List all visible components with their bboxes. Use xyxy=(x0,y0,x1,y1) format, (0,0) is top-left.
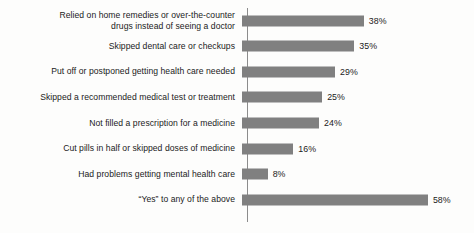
bar-track: 8% xyxy=(241,161,474,187)
bar xyxy=(242,194,428,205)
bar-track: 29% xyxy=(241,59,474,85)
bar xyxy=(242,41,354,52)
category-label: Skipped dental care or checkups xyxy=(0,41,241,52)
category-label: Had problems getting mental health care xyxy=(0,169,241,180)
bar-track: 25% xyxy=(241,84,474,110)
bar xyxy=(242,117,319,128)
bar-row: Not filled a prescription for a medicine… xyxy=(0,110,474,136)
category-label: Not filled a prescription for a medicine xyxy=(0,118,241,129)
bar-value-label: 8% xyxy=(273,169,286,179)
bar-row: “Yes” to any of the above58% xyxy=(0,187,474,213)
bar-row: Skipped a recommended medical test or tr… xyxy=(0,84,474,110)
bar-track: 58% xyxy=(241,187,474,213)
bar-row: Skipped dental care or checkups35% xyxy=(0,33,474,59)
bar-value-label: 24% xyxy=(324,118,342,128)
bar-track: 16% xyxy=(241,136,474,162)
bar-value-label: 29% xyxy=(340,67,358,77)
bar xyxy=(242,66,335,77)
bar-track: 35% xyxy=(241,33,474,59)
category-label: Put off or postponed getting health care… xyxy=(0,66,241,77)
bar xyxy=(242,169,268,180)
bar-row: Cut pills in half or skipped doses of me… xyxy=(0,136,474,162)
bar-value-label: 38% xyxy=(369,16,387,26)
bar xyxy=(242,15,364,26)
bar-row: Put off or postponed getting health care… xyxy=(0,59,474,85)
bar-track: 38% xyxy=(241,8,474,34)
bar-row: Had problems getting mental health care8… xyxy=(0,161,474,187)
bar-value-label: 58% xyxy=(433,195,451,205)
category-label: Skipped a recommended medical test or tr… xyxy=(0,92,241,103)
bar-track: 24% xyxy=(241,110,474,136)
bar-row: Relied on home remedies or over-the-coun… xyxy=(0,8,474,34)
bar xyxy=(242,92,322,103)
category-label: Relied on home remedies or over-the-coun… xyxy=(0,10,241,31)
bar-value-label: 16% xyxy=(298,144,316,154)
bar-rows: Relied on home remedies or over-the-coun… xyxy=(0,0,474,233)
category-label: “Yes” to any of the above xyxy=(0,194,241,205)
bar-value-label: 25% xyxy=(327,92,345,102)
bar xyxy=(242,143,293,154)
category-label: Cut pills in half or skipped doses of me… xyxy=(0,143,241,154)
bar-value-label: 35% xyxy=(359,41,377,51)
bar-chart: Relied on home remedies or over-the-coun… xyxy=(0,0,474,233)
